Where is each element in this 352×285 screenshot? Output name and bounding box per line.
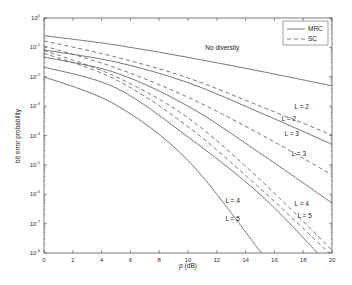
curves xyxy=(44,36,332,253)
x-tick-label: 12 xyxy=(213,257,220,263)
curve-annotation: L = 2 xyxy=(295,103,310,110)
x-axis-label: ρ (dB) xyxy=(179,262,197,270)
curve-annotation: L = 5 xyxy=(225,215,240,222)
y-tick-label: 10-7 xyxy=(30,219,41,227)
curve-annotation: L = 4 xyxy=(295,200,310,207)
curve-annotation: L = 3 xyxy=(292,150,307,157)
ber-chart: 0246810121416182010010-110-210-310-410-5… xyxy=(0,0,352,285)
legend: MRCSC xyxy=(283,21,328,45)
curve-annotation: L = 2 xyxy=(282,115,297,122)
y-tick-label: 10-5 xyxy=(30,160,41,168)
x-tick-label: 20 xyxy=(329,257,336,263)
plot-axes: 0246810121416182010010-110-210-310-410-5… xyxy=(30,13,336,263)
curve-annotation: No diversity xyxy=(205,44,240,52)
x-tick-label: 14 xyxy=(242,257,249,263)
x-tick-label: 2 xyxy=(71,257,75,263)
y-tick-label: 100 xyxy=(31,13,41,21)
y-tick-label: 10-3 xyxy=(30,101,41,109)
x-tick-label: 16 xyxy=(271,257,278,263)
y-tick-label: 10-2 xyxy=(30,72,41,80)
y-tick-label: 10-4 xyxy=(30,131,41,139)
legend-label-sc: SC xyxy=(308,35,317,42)
x-tick-label: 0 xyxy=(42,257,46,263)
curve-annotation: L = 5 xyxy=(297,212,312,219)
curve-mrc-l-5 xyxy=(44,77,261,253)
curve-sc-l-5 xyxy=(44,53,329,253)
curve-annotation: L = 4 xyxy=(225,197,240,204)
curve-annotation: L = 3 xyxy=(284,130,299,137)
y-tick-label: 10-6 xyxy=(30,189,41,197)
x-tick-label: 18 xyxy=(300,257,307,263)
y-tick-label: 10-8 xyxy=(30,248,41,256)
legend-label-mrc: MRC xyxy=(308,25,323,32)
x-tick-label: 6 xyxy=(129,257,133,263)
x-tick-label: 4 xyxy=(100,257,104,263)
curve-mrc-l-4 xyxy=(44,67,318,253)
y-tick-label: 10-1 xyxy=(30,42,41,50)
y-axis-label: bit error probability xyxy=(14,108,22,163)
x-tick-label: 8 xyxy=(158,257,162,263)
